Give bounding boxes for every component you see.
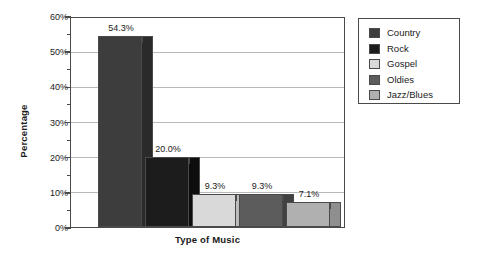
y-tick-label-50: 50% bbox=[38, 47, 68, 57]
legend-swatch-icon bbox=[369, 75, 380, 85]
legend-item-oldies[interactable]: Oldies bbox=[369, 73, 459, 87]
y-tick-label-30: 30% bbox=[38, 118, 68, 128]
bar-oldies bbox=[239, 194, 283, 227]
legend-item-gospel[interactable]: Gospel bbox=[369, 57, 459, 71]
y-tick-major-40 bbox=[65, 87, 71, 89]
bar-rock bbox=[145, 157, 189, 227]
y-tick-major-0 bbox=[65, 227, 71, 229]
legend-item-jazz-blues[interactable]: Jazz/Blues bbox=[369, 88, 459, 102]
y-tick-major-30 bbox=[65, 122, 71, 124]
bar-top-face bbox=[283, 194, 294, 201]
legend-swatch-icon bbox=[369, 28, 380, 38]
y-axis-tick-labels: 0%10%20%30%40%50%60% bbox=[36, 0, 68, 255]
legend: CountryRockGospelOldiesJazz/Blues bbox=[358, 18, 460, 104]
bar-front-face bbox=[239, 194, 283, 227]
gridline-60 bbox=[71, 17, 344, 19]
bar-front-face bbox=[286, 202, 330, 227]
legend-swatch-icon bbox=[369, 59, 380, 69]
bar-value-label-jazz-blues: 7.1% bbox=[299, 189, 320, 199]
bar-gospel bbox=[192, 194, 236, 227]
legend-item-label: Rock bbox=[387, 44, 409, 54]
y-tick-major-20 bbox=[65, 157, 71, 159]
bar-top-face bbox=[330, 202, 341, 209]
bar-value-label-oldies: 9.3% bbox=[252, 181, 273, 191]
legend-item-country[interactable]: Country bbox=[369, 26, 459, 40]
bar-chart-figure: Percentage 0%10%20%30%40%50%60% Type of … bbox=[0, 0, 477, 255]
bar-top-face bbox=[142, 36, 153, 43]
bar-value-label-gospel: 9.3% bbox=[205, 181, 226, 191]
legend-item-rock[interactable]: Rock bbox=[369, 42, 459, 56]
bar-country bbox=[98, 36, 142, 227]
y-tick-major-50 bbox=[65, 51, 71, 53]
y-axis-title: Percentage bbox=[18, 86, 32, 176]
y-tick-label-10: 10% bbox=[38, 188, 68, 198]
x-axis-title: Type of Music bbox=[70, 234, 345, 245]
legend-item-label: Gospel bbox=[387, 59, 417, 69]
bar-top-face bbox=[189, 157, 200, 164]
legend-item-label: Country bbox=[387, 28, 420, 38]
bar-front-face bbox=[192, 194, 236, 227]
legend-swatch-icon bbox=[369, 90, 380, 100]
y-tick-label-20: 20% bbox=[38, 153, 68, 163]
bar-value-label-country: 54.3% bbox=[108, 23, 134, 33]
y-tick-label-40: 40% bbox=[38, 82, 68, 92]
y-tick-minor-35 bbox=[67, 104, 71, 105]
bar-front-face bbox=[98, 36, 142, 227]
y-tick-label-60: 60% bbox=[38, 12, 68, 22]
y-tick-minor-15 bbox=[67, 175, 71, 176]
bar-front-face bbox=[145, 157, 189, 227]
legend-swatch-icon bbox=[369, 44, 380, 54]
bar-jazz-blues bbox=[286, 202, 330, 227]
y-tick-minor-55 bbox=[67, 34, 71, 35]
y-tick-minor-45 bbox=[67, 69, 71, 70]
y-tick-major-10 bbox=[65, 192, 71, 194]
y-tick-label-0: 0% bbox=[38, 223, 68, 233]
bar-side-face bbox=[330, 208, 341, 227]
y-tick-minor-5 bbox=[67, 210, 71, 211]
legend-item-label: Oldies bbox=[387, 75, 414, 85]
y-tick-minor-25 bbox=[67, 140, 71, 141]
legend-item-label: Jazz/Blues bbox=[387, 90, 433, 100]
bar-value-label-rock: 20.0% bbox=[155, 144, 181, 154]
y-tick-major-60 bbox=[65, 16, 71, 18]
